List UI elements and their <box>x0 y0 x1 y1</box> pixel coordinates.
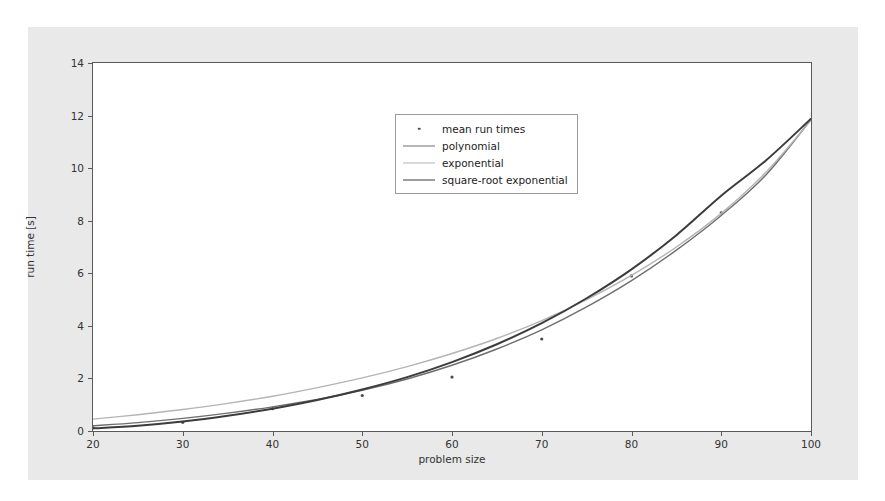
ytick-10 <box>88 168 93 169</box>
xtick-label-100: 100 <box>801 438 821 450</box>
xtick-label-50: 50 <box>356 438 369 450</box>
ytick-label-8: 8 <box>77 215 84 227</box>
xtick-100 <box>811 431 812 436</box>
line-swatch-polynomial-icon <box>402 140 436 152</box>
xtick-label-90: 90 <box>715 438 728 450</box>
data-point-marker <box>361 394 364 397</box>
legend-item-mean-run-times: mean run times <box>402 120 568 137</box>
ytick-12 <box>88 116 93 117</box>
ytick-label-6: 6 <box>77 267 84 279</box>
marker-dot-icon <box>402 123 436 135</box>
ytick-label-4: 4 <box>77 320 84 332</box>
line-swatch-square-root-exponential-icon <box>402 174 436 186</box>
xtick-label-80: 80 <box>625 438 638 450</box>
legend-item-square-root-exponential: square-root exponential <box>402 171 568 188</box>
xtick-50 <box>362 431 363 436</box>
ytick-6 <box>88 273 93 274</box>
ytick-label-14: 14 <box>71 57 84 69</box>
xtick-label-60: 60 <box>445 438 458 450</box>
xtick-60 <box>452 431 453 436</box>
y-axis-label: run time [s] <box>24 216 36 278</box>
ytick-label-2: 2 <box>77 372 84 384</box>
legend-label-square-root-exponential: square-root exponential <box>442 174 568 186</box>
plot-axes: 0 2 4 6 8 10 12 14 20 30 40 50 60 <box>92 62 812 432</box>
legend-label-polynomial: polynomial <box>442 140 500 152</box>
xtick-label-40: 40 <box>266 438 279 450</box>
xtick-30 <box>183 431 184 436</box>
xtick-80 <box>632 431 633 436</box>
ytick-label-0: 0 <box>77 425 84 437</box>
xtick-label-20: 20 <box>86 438 99 450</box>
figure-canvas: 0 2 4 6 8 10 12 14 20 30 40 50 60 <box>28 27 858 480</box>
xtick-20 <box>93 431 94 436</box>
x-axis-label: problem size <box>418 453 485 465</box>
ytick-4 <box>88 326 93 327</box>
chart-screenshot: 0 2 4 6 8 10 12 14 20 30 40 50 60 <box>0 0 885 501</box>
xtick-70 <box>542 431 543 436</box>
ytick-8 <box>88 221 93 222</box>
legend-item-polynomial: polynomial <box>402 137 568 154</box>
ytick-label-10: 10 <box>71 162 84 174</box>
legend-item-exponential: exponential <box>402 154 568 171</box>
xtick-40 <box>273 431 274 436</box>
xtick-90 <box>721 431 722 436</box>
chart-legend: mean run times polynomial exponential sq… <box>395 114 578 194</box>
ytick-label-12: 12 <box>71 110 84 122</box>
line-swatch-exponential-icon <box>402 157 436 169</box>
legend-label-exponential: exponential <box>442 157 504 169</box>
data-point-marker <box>540 337 543 340</box>
data-point-marker <box>450 376 453 379</box>
legend-label-mean-run-times: mean run times <box>442 123 525 135</box>
ytick-2 <box>88 378 93 379</box>
xtick-label-70: 70 <box>535 438 548 450</box>
ytick-14 <box>88 63 93 64</box>
xtick-label-30: 30 <box>176 438 189 450</box>
